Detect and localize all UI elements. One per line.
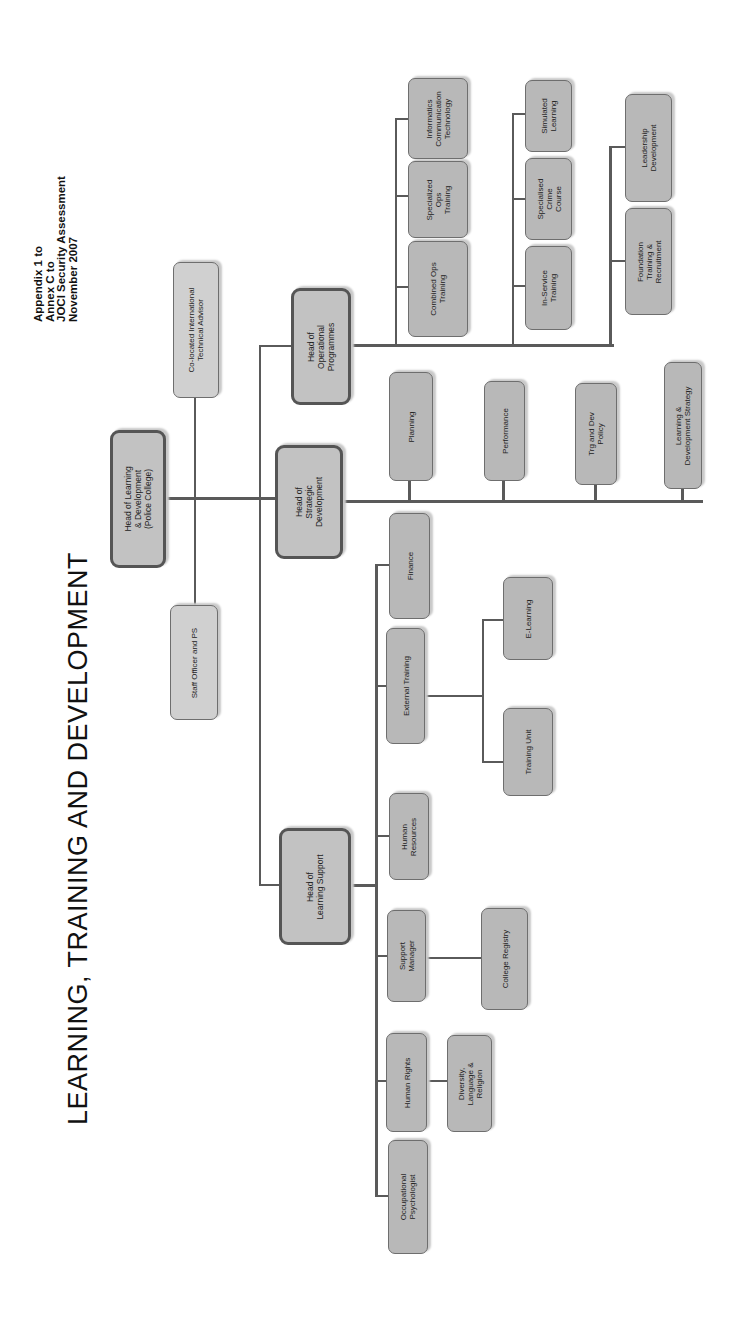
connector — [375, 835, 389, 837]
connector — [375, 1195, 388, 1197]
connector — [424, 957, 482, 959]
node-simulated-learning: Simulated Learning — [525, 80, 572, 152]
node-label: Head of Operational Programmes — [306, 322, 336, 371]
node-label: Training Unit — [524, 729, 533, 774]
connector — [342, 500, 703, 503]
connector — [350, 344, 614, 347]
node-label: Head of Learning Support — [305, 854, 325, 919]
node-support-manager: Support Manager — [387, 910, 426, 1002]
connector — [423, 695, 484, 697]
node-label: Specialised Crime Course — [535, 179, 562, 220]
connector — [482, 619, 484, 763]
node-label: Finance — [405, 552, 414, 580]
node-occupational-psychologist: Occupational Psychologist — [388, 1140, 428, 1254]
connector — [194, 396, 196, 606]
connector — [512, 113, 526, 115]
node-label: Specialized Ops Training — [425, 179, 452, 220]
node-leadership: Leadership Development — [625, 94, 672, 202]
node-specialised-crime: Specialised Crime Course — [525, 158, 572, 240]
connector — [259, 345, 292, 347]
connector — [395, 286, 409, 288]
node-specialized-ops: Specialized Ops Training — [408, 161, 468, 238]
node-label: Head of Learning & Development (Police C… — [123, 466, 153, 531]
connector — [482, 761, 503, 763]
node-head-strategic: Head of Strategic Development — [275, 445, 343, 559]
appendix-line-3: JOCI Security Assessment — [56, 176, 68, 322]
node-label: Co-located International Technical Advis… — [187, 288, 205, 373]
connector — [375, 564, 389, 566]
node-label: External Training — [401, 656, 410, 716]
connector — [395, 118, 409, 120]
connector — [609, 146, 626, 148]
node-label: Head of Strategic Development — [294, 477, 324, 527]
node-planning: Planning — [389, 372, 433, 481]
connector — [512, 285, 526, 287]
connector — [408, 479, 411, 501]
node-college-registry: College Registry — [481, 908, 528, 1010]
node-human-resources: Human Resources — [389, 793, 429, 880]
chart-title: LEARNING, TRAINING AND DEVELOPMENT — [65, 552, 92, 1125]
node-label: Performance — [500, 408, 509, 454]
node-label: Foundation Training & Recruitment — [635, 240, 662, 283]
node-human-rights: Human Rights — [386, 1033, 427, 1132]
node-label: In-Service Training — [540, 270, 558, 306]
connector — [425, 1080, 448, 1082]
node-finance: Finance — [389, 513, 430, 619]
node-label: College Registry — [500, 930, 509, 989]
node-staff-officer: Staff Officer and PS — [170, 605, 218, 720]
node-label: E-Learning — [524, 599, 533, 638]
connector — [259, 345, 261, 886]
node-label: Support Manager — [398, 940, 416, 972]
node-label: Leadership Development — [640, 124, 658, 171]
node-label: Human Rights — [402, 1057, 411, 1108]
node-head-learning-support: Head of Learning Support — [279, 828, 351, 945]
node-label: Combined Ops Training — [429, 262, 447, 315]
node-ict: Informatics Communication Technology — [408, 78, 468, 159]
node-label: Occupational Psychologist — [399, 1174, 417, 1221]
connector — [259, 884, 280, 886]
node-label: Staff Officer and PS — [190, 627, 199, 697]
node-label: Simulated Learning — [540, 98, 558, 134]
node-e-learning: E-Learning — [503, 577, 553, 660]
connector — [395, 195, 409, 197]
node-label: Planning — [407, 411, 416, 442]
connector — [512, 198, 526, 200]
node-label: Informatics Communication Technology — [425, 91, 452, 147]
node-head-operational: Head of Operational Programmes — [291, 288, 351, 405]
node-diversity: Diversity, Language & Religion — [447, 1035, 492, 1132]
node-label: Learning & Development Strategy — [674, 386, 692, 465]
node-foundation-training: Foundation Training & Recruitment — [625, 208, 672, 315]
connector — [609, 260, 626, 262]
node-label: Diversity, Language & Religion — [456, 1062, 483, 1105]
appendix-line-1: Appendix 1 to — [33, 246, 45, 322]
node-head-learning-development: Head of Learning & Development (Police C… — [110, 430, 166, 568]
node-label: Trg and Dev Policy — [587, 412, 605, 456]
node-ld-strategy: Learning & Development Strategy — [664, 362, 702, 489]
connector — [502, 479, 505, 501]
node-trg-dev-policy: Trg and Dev Policy — [575, 383, 617, 485]
node-training-unit: Training Unit — [503, 708, 553, 796]
node-label: Human Resources — [400, 817, 418, 855]
connector — [512, 113, 514, 346]
connector — [609, 146, 612, 346]
node-external-training: External Training — [386, 628, 425, 744]
node-in-service: In-Service Training — [525, 246, 572, 330]
connector — [375, 955, 387, 957]
connector — [395, 118, 397, 346]
connector — [375, 564, 378, 1197]
node-performance: Performance — [484, 381, 525, 481]
node-combined-ops: Combined Ops Training — [408, 241, 468, 337]
connector — [681, 487, 684, 501]
connector — [594, 483, 597, 501]
connector — [350, 884, 378, 887]
node-co-located-advisor: Co-located International Technical Advis… — [173, 262, 219, 398]
connector — [482, 619, 503, 621]
appendix-line-4: November 2007 — [68, 237, 80, 322]
